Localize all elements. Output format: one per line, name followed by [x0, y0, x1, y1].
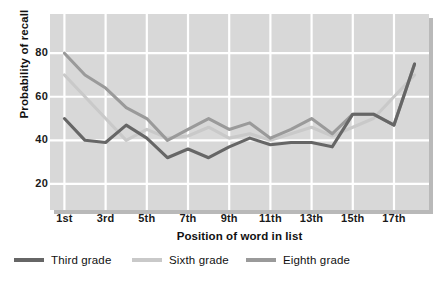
y-axis-tick-label: 20: [4, 177, 48, 189]
series-lines: [64, 53, 414, 158]
plot-canvas: [50, 14, 429, 210]
x-axis-tick-label: 9th: [209, 212, 249, 224]
x-axis-tick-label: 17th: [374, 212, 414, 224]
plot-area: [50, 14, 429, 210]
gridlines: [50, 14, 429, 210]
x-axis-tick-label: 5th: [127, 212, 167, 224]
y-axis-title: Probability of recall: [18, 0, 30, 144]
x-axis-tick-label: 13th: [292, 212, 332, 224]
series-line: [64, 64, 414, 158]
x-axis-tick-label: 11th: [250, 212, 290, 224]
legend-item[interactable]: Eighth grade: [246, 252, 350, 268]
x-axis-tick-label: 3rd: [86, 212, 126, 224]
legend-swatch-icon: [132, 258, 162, 262]
legend-label: Third grade: [51, 254, 111, 266]
legend-swatch-icon: [14, 258, 44, 262]
legend-label: Eighth grade: [283, 254, 350, 266]
x-axis-tick-label: 15th: [333, 212, 373, 224]
x-axis-tick-label: 1st: [44, 212, 84, 224]
x-axis: 1st3rd5th7th9th11th13th15th17th: [50, 212, 429, 230]
chart-legend: Third gradeSixth gradeEighth grade: [14, 252, 434, 268]
serial-position-chart-figure: 20406080 Probability of recall 1st3rd5th…: [0, 0, 443, 282]
legend-item[interactable]: Sixth grade: [132, 252, 229, 268]
legend-label: Sixth grade: [169, 254, 229, 266]
x-axis-title: Position of word in list: [50, 230, 429, 242]
legend-swatch-icon: [246, 258, 276, 262]
legend-item[interactable]: Third grade: [14, 252, 111, 268]
series-line: [64, 75, 414, 140]
x-axis-tick-label: 7th: [168, 212, 208, 224]
